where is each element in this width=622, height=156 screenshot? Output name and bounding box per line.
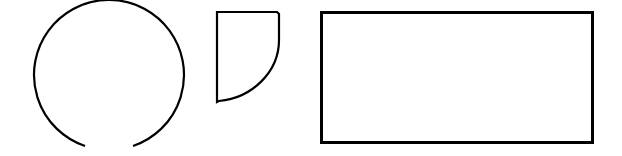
quarter-sector-shape xyxy=(217,12,279,102)
shapes-canvas xyxy=(0,0,622,156)
open-circle-shape xyxy=(34,0,184,146)
rectangle-shape xyxy=(322,13,593,143)
